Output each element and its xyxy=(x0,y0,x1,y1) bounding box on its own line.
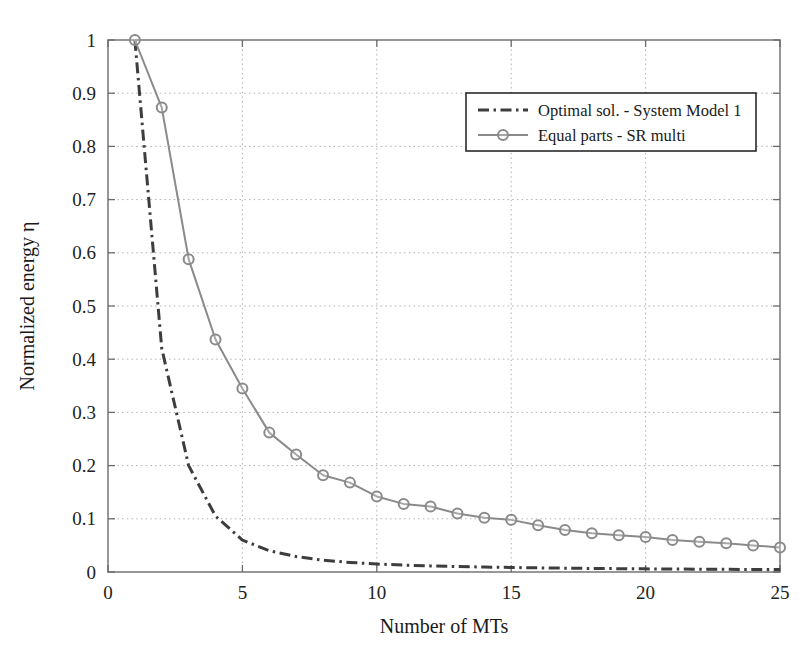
data-point-marker xyxy=(184,254,194,264)
data-point-marker xyxy=(479,513,489,523)
data-point-marker xyxy=(291,449,301,459)
x-tick-label: 15 xyxy=(502,582,521,603)
data-point-marker xyxy=(318,470,328,480)
y-tick-label: 1 xyxy=(87,30,97,51)
x-tick-label: 0 xyxy=(103,582,113,603)
data-point-marker xyxy=(237,383,247,393)
y-tick-label: 0.8 xyxy=(72,136,96,157)
y-tick-label: 0.7 xyxy=(72,189,96,210)
y-tick-label: 0.5 xyxy=(72,296,96,317)
chart-legend: Optimal sol. - System Model 1Equal parts… xyxy=(466,93,756,151)
data-point-marker xyxy=(452,508,462,518)
x-tick-label: 25 xyxy=(771,582,790,603)
y-axis-title: Normalized energy η xyxy=(16,222,39,391)
data-point-marker xyxy=(533,520,543,530)
data-point-marker xyxy=(614,530,624,540)
y-tick-label: 0 xyxy=(87,562,97,583)
y-tick-label: 0.9 xyxy=(72,83,96,104)
data-point-marker xyxy=(506,515,516,525)
y-tick-label: 0.1 xyxy=(72,508,96,529)
x-axis-title: Number of MTs xyxy=(380,615,509,637)
y-tick-label: 0.2 xyxy=(72,455,96,476)
energy-vs-mts-chart: 0510152025 00.10.20.30.40.50.60.70.80.91… xyxy=(0,0,807,660)
data-point-marker xyxy=(748,540,758,550)
data-point-marker xyxy=(345,478,355,488)
data-point-marker xyxy=(264,428,274,438)
data-point-marker xyxy=(157,103,167,113)
data-point-marker xyxy=(641,532,651,542)
legend-label: Equal parts - SR multi xyxy=(538,126,686,145)
data-point-marker xyxy=(130,35,140,45)
data-point-marker xyxy=(721,538,731,548)
x-tick-label: 5 xyxy=(238,582,248,603)
data-point-marker xyxy=(667,535,677,545)
data-point-marker xyxy=(372,491,382,501)
data-point-marker xyxy=(694,537,704,547)
y-tick-label: 0.4 xyxy=(72,349,96,370)
data-point-marker xyxy=(587,528,597,538)
y-tick-label: 0.6 xyxy=(72,242,96,263)
legend-marker-sample xyxy=(498,130,508,140)
legend-label: Optimal sol. - System Model 1 xyxy=(538,101,742,120)
x-tick-label: 10 xyxy=(367,582,386,603)
data-point-marker xyxy=(560,525,570,535)
x-tick-label: 20 xyxy=(636,582,655,603)
data-point-marker xyxy=(211,335,221,345)
chart-page: 0510152025 00.10.20.30.40.50.60.70.80.91… xyxy=(0,0,807,660)
data-point-marker xyxy=(426,502,436,512)
y-tick-label: 0.3 xyxy=(72,402,96,423)
data-point-marker xyxy=(399,499,409,509)
data-point-marker xyxy=(775,543,785,553)
